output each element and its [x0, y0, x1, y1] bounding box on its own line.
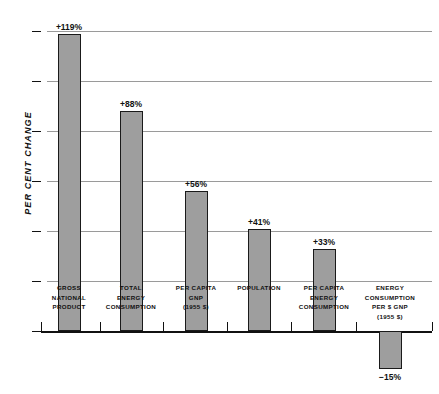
category-label: GROSS NATIONAL PRODUCT: [38, 283, 101, 312]
category-tick: [432, 322, 433, 331]
category-tick: [41, 322, 42, 331]
category-label: ENERGY CONSUMPTION PER $ GNP (1955 $): [359, 283, 422, 321]
category-label: POPULATION: [228, 283, 291, 293]
bar-value-label: +33%: [293, 237, 356, 247]
bar-value-label: +88%: [100, 99, 163, 109]
bar-value-label: +41%: [228, 217, 291, 227]
category-tick: [356, 322, 357, 331]
category-tick: [291, 322, 292, 331]
bar: [248, 229, 271, 332]
category-tick: [100, 322, 101, 331]
bar-chart: PER CENT CHANGE 020406080100120 +119%GRO…: [0, 0, 439, 394]
bar-value-label: +56%: [165, 179, 228, 189]
bar-value-label: +119%: [38, 22, 101, 32]
category-tick: [163, 322, 164, 331]
bar-value-label: −15%: [359, 372, 422, 382]
bar: [379, 331, 402, 369]
category-tick: [227, 322, 228, 331]
category-label: TOTAL ENERGY CONSUMPTION: [100, 283, 163, 312]
category-label: PER CAPITA GNP (1955 $): [165, 283, 228, 312]
plot-area: +119%GROSS NATIONAL PRODUCT+88%TOTAL ENE…: [0, 0, 439, 394]
category-label: PER CAPITA ENERGY CONSUMPTION: [293, 283, 356, 312]
